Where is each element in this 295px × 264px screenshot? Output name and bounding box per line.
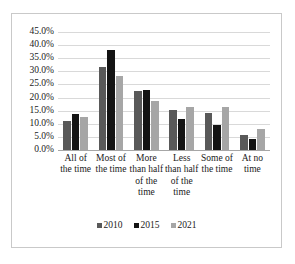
y-axis-tick-label: 15.0% xyxy=(29,106,54,116)
bar-group xyxy=(235,32,270,150)
bar-2010-4 xyxy=(205,113,213,150)
y-axis-tick-label: 45.0% xyxy=(29,27,54,37)
x-axis-label: Most of the time xyxy=(93,153,128,176)
x-axis-label: More than half of the time xyxy=(129,153,164,199)
chart-frame: 0.0%5.0%10.0%15.0%20.0%25.0%30.0%35.0%40… xyxy=(11,13,282,248)
y-axis-tick-label: 40.0% xyxy=(29,40,54,50)
bar-group xyxy=(164,32,199,150)
legend-swatch-icon xyxy=(97,223,102,228)
bar-2015-5 xyxy=(249,139,257,150)
legend-item-2015[interactable]: 2015 xyxy=(134,221,160,231)
bar-2010-5 xyxy=(240,135,248,150)
x-axis-label: Less than half of the time xyxy=(164,153,199,199)
bar-group xyxy=(58,32,93,150)
bar-2015-1 xyxy=(107,50,115,150)
bar-2010-0 xyxy=(63,121,71,150)
bars-layer xyxy=(58,32,270,150)
bar-group xyxy=(129,32,164,150)
y-axis-tick-label: 5.0% xyxy=(34,132,54,142)
y-axis-tick-label: 35.0% xyxy=(29,53,54,63)
bar-2021-1 xyxy=(116,76,124,150)
x-axis-labels: All of the timeMost of the timeMore than… xyxy=(58,153,270,223)
bar-2015-3 xyxy=(178,119,186,150)
bar-2015-4 xyxy=(213,125,221,150)
legend-item-2010[interactable]: 2010 xyxy=(97,221,123,231)
bar-2021-4 xyxy=(222,107,230,150)
bar-2010-2 xyxy=(134,91,142,150)
legend-label: 2021 xyxy=(178,221,197,231)
bar-2010-1 xyxy=(99,67,107,150)
bar-2015-0 xyxy=(72,114,80,150)
bar-2010-3 xyxy=(169,110,177,150)
x-axis-label: At no time xyxy=(235,153,270,176)
y-axis-tick-label: 0.0% xyxy=(34,145,54,155)
x-axis-label: Some of the time xyxy=(199,153,234,176)
legend-swatch-icon xyxy=(134,223,139,228)
y-axis-tick-label: 30.0% xyxy=(29,67,54,77)
bar-group xyxy=(199,32,234,150)
legend-label: 2010 xyxy=(104,221,123,231)
bar-2021-0 xyxy=(80,117,88,150)
y-axis-tick-label: 10.0% xyxy=(29,119,54,129)
bar-2015-2 xyxy=(143,90,151,150)
legend-label: 2015 xyxy=(141,221,160,231)
x-axis-label: All of the time xyxy=(58,153,93,176)
bar-2021-5 xyxy=(257,129,265,150)
axis-baseline: 0.0% xyxy=(58,150,270,151)
legend-swatch-icon xyxy=(171,223,176,228)
y-axis-tick-label: 25.0% xyxy=(29,80,54,90)
legend-item-2021[interactable]: 2021 xyxy=(171,221,197,231)
plot-area: 0.0%5.0%10.0%15.0%20.0%25.0%30.0%35.0%40… xyxy=(58,32,270,150)
chart-legend: 201020152021 xyxy=(12,221,281,231)
bar-group xyxy=(93,32,128,150)
bar-2021-2 xyxy=(151,101,159,150)
y-axis-tick-label: 20.0% xyxy=(29,93,54,103)
bar-2021-3 xyxy=(186,107,194,150)
